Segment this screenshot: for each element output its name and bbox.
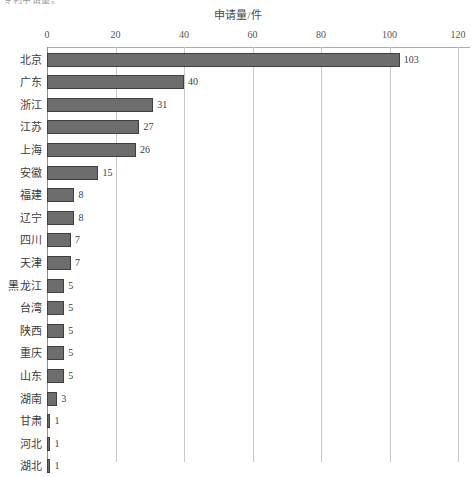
category-label-安徽: 安徽 — [0, 162, 42, 185]
bar — [47, 143, 136, 157]
bar-row: 上海26 — [0, 139, 476, 162]
x-tick-label-120: 120 — [451, 29, 466, 41]
x-tick-label-60: 60 — [248, 29, 258, 41]
category-label-甘肃: 甘肃 — [0, 410, 42, 433]
bar-value-label: 5 — [68, 320, 73, 343]
bar-row: 广东40 — [0, 71, 476, 94]
bar — [47, 346, 64, 360]
category-label-山东: 山东 — [0, 365, 42, 388]
category-label-重庆: 重庆 — [0, 342, 42, 365]
bar-row: 陕西5 — [0, 320, 476, 343]
bar-row: 台湾5 — [0, 297, 476, 320]
chart-title: 申请量/件 — [0, 9, 476, 22]
bar-row: 山东5 — [0, 365, 476, 388]
bar-row: 江苏27 — [0, 116, 476, 139]
category-label-天津: 天津 — [0, 252, 42, 275]
bar — [47, 166, 98, 180]
x-tick-label-40: 40 — [179, 29, 189, 41]
bar — [47, 369, 64, 383]
plot-area: 北京103广东40浙江31江苏27上海26安徽15福建8辽宁8四川7天津7黑龙江… — [47, 47, 458, 462]
bar — [47, 279, 64, 293]
bar — [47, 188, 74, 202]
bar-value-label: 1 — [54, 455, 59, 477]
category-label-湖南: 湖南 — [0, 388, 42, 411]
x-tick-label-0: 0 — [45, 29, 50, 41]
bar — [47, 211, 74, 225]
category-label-江苏: 江苏 — [0, 116, 42, 139]
bar-value-label: 5 — [68, 275, 73, 298]
bar-value-label: 5 — [68, 297, 73, 320]
bar-value-label: 15 — [102, 162, 112, 185]
bar — [47, 98, 153, 112]
bar-value-label: 8 — [78, 207, 83, 230]
bar-row: 湖北1 — [0, 455, 476, 477]
bar — [47, 120, 139, 134]
bar-value-label: 8 — [78, 184, 83, 207]
bar-value-label: 27 — [143, 116, 153, 139]
bar-row: 辽宁8 — [0, 207, 476, 230]
bar-value-label: 1 — [54, 410, 59, 433]
x-tick-label-80: 80 — [316, 29, 326, 41]
category-label-河北: 河北 — [0, 433, 42, 456]
bar-value-label: 103 — [404, 49, 419, 72]
bar — [47, 324, 64, 338]
bar-row: 浙江31 — [0, 94, 476, 117]
bar — [47, 75, 184, 89]
category-label-湖北: 湖北 — [0, 455, 42, 477]
bar-row: 福建8 — [0, 184, 476, 207]
bar-value-label: 31 — [157, 94, 167, 117]
x-tick-label-100: 100 — [382, 29, 397, 41]
category-label-陕西: 陕西 — [0, 320, 42, 343]
bar — [47, 414, 50, 428]
bar-row: 河北1 — [0, 433, 476, 456]
category-label-台湾: 台湾 — [0, 297, 42, 320]
bar-row: 重庆5 — [0, 342, 476, 365]
category-label-广东: 广东 — [0, 71, 42, 94]
bar-row: 天津7 — [0, 252, 476, 275]
bar — [47, 53, 400, 67]
bar-value-label: 40 — [188, 71, 198, 94]
bar-value-label: 5 — [68, 365, 73, 388]
bar-value-label: 7 — [75, 229, 80, 252]
bar — [47, 459, 50, 473]
category-label-福建: 福建 — [0, 184, 42, 207]
bar — [47, 233, 71, 247]
bar-row: 北京103 — [0, 49, 476, 72]
bar — [47, 437, 50, 451]
left-margin-bleed — [0, 47, 1, 462]
bar — [47, 256, 71, 270]
category-label-北京: 北京 — [0, 49, 42, 72]
category-label-黑龙江: 黑龙江 — [0, 275, 42, 298]
category-label-辽宁: 辽宁 — [0, 207, 42, 230]
bar — [47, 392, 57, 406]
category-label-上海: 上海 — [0, 139, 42, 162]
bar-value-label: 1 — [54, 433, 59, 456]
bar-value-label: 5 — [68, 342, 73, 365]
bar-value-label: 7 — [75, 252, 80, 275]
bar-row: 安徽15 — [0, 162, 476, 185]
bar — [47, 301, 64, 315]
bar-value-label: 26 — [140, 139, 150, 162]
bar-row: 湖南3 — [0, 388, 476, 411]
bar-row: 甘肃1 — [0, 410, 476, 433]
category-label-浙江: 浙江 — [0, 94, 42, 117]
category-label-四川: 四川 — [0, 229, 42, 252]
bar-row: 四川7 — [0, 229, 476, 252]
bar-value-label: 3 — [61, 388, 66, 411]
x-tick-label-20: 20 — [111, 29, 121, 41]
bar-row: 黑龙江5 — [0, 275, 476, 298]
